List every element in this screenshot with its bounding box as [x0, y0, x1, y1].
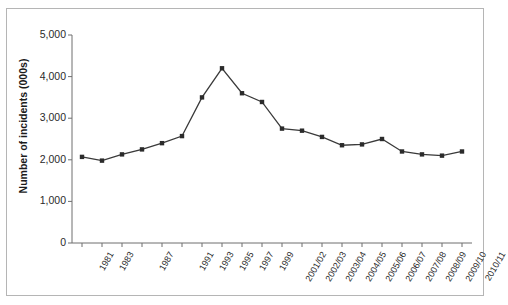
chart-axes: [68, 35, 472, 247]
data-point: [100, 158, 104, 162]
data-point: [320, 135, 324, 139]
data-point: [420, 152, 424, 156]
data-point: [380, 137, 384, 141]
data-point: [200, 95, 204, 99]
data-point: [240, 91, 244, 95]
data-point: [120, 152, 124, 156]
data-line: [82, 68, 462, 160]
data-point: [360, 142, 364, 146]
data-point: [180, 134, 184, 138]
data-point: [80, 155, 84, 159]
data-point: [260, 100, 264, 104]
data-point: [140, 147, 144, 151]
x-axis-ticks: [82, 243, 462, 247]
data-point: [460, 149, 464, 153]
data-point: [280, 126, 284, 130]
data-point: [220, 66, 224, 70]
data-point: [440, 153, 444, 157]
y-axis-ticks: [68, 35, 72, 243]
data-point: [300, 128, 304, 132]
data-point: [340, 143, 344, 147]
data-point: [160, 141, 164, 145]
data-point: [400, 149, 404, 153]
